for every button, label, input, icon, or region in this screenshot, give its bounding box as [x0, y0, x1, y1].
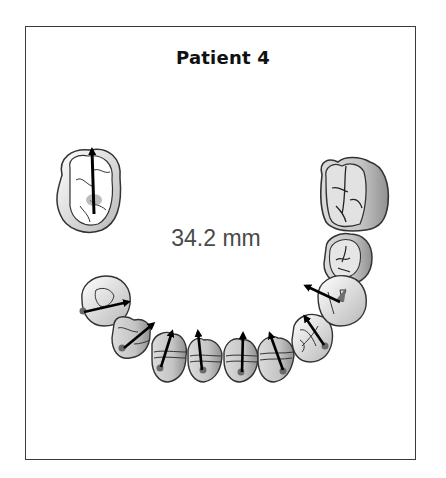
lower-left-incisor [188, 332, 222, 382]
upper-right-molar [321, 158, 389, 232]
lower-right-incisor [224, 334, 258, 382]
lower-right-canine [258, 334, 294, 382]
lower-left-premolar-1 [112, 317, 153, 359]
dental-arch-diagram [0, 0, 446, 478]
arrow-icon [242, 334, 243, 372]
upper-left-molar [57, 149, 121, 232]
arrow-icon [92, 150, 94, 214]
lower-left-canine [152, 332, 186, 382]
